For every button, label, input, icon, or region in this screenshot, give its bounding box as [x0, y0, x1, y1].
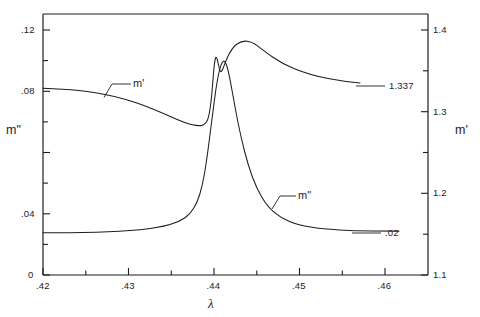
- curve-label-m-double-prime: m": [298, 190, 311, 201]
- x-axis-title: λ: [208, 297, 214, 310]
- plot-frame: [43, 14, 428, 275]
- left-axis-ticks: [43, 30, 50, 275]
- y2tick-label-14: 1.4: [433, 25, 447, 35]
- y2tick-label-12: 1.2: [433, 188, 447, 198]
- ytick-label-012: .12: [21, 25, 35, 35]
- xtick-label-042: .42: [36, 281, 50, 291]
- curve-label-m-prime: m': [133, 78, 145, 89]
- ytick-label-008: .08: [21, 86, 35, 96]
- y2tick-label-11: 1.1: [433, 270, 447, 280]
- y2tick-label-13: 1.3: [433, 107, 447, 117]
- value-label-m-prime-asymptote: 1.337: [389, 81, 414, 91]
- curve-m-prime: [43, 41, 360, 125]
- y2-axis-title: m': [455, 124, 468, 137]
- figure-root: 0 .04 .08 .12 1.1 1.2 1.3 1.4 .42 .43 .4…: [0, 0, 480, 317]
- chart-canvas: [0, 0, 480, 317]
- xtick-label-044: .44: [207, 281, 221, 291]
- x-axis-ticks: [43, 268, 385, 275]
- curve-m-double-prime: [43, 61, 399, 233]
- y-axis-title: m": [6, 124, 21, 137]
- xtick-label-045: .45: [292, 281, 306, 291]
- leader-line-m-double-prime: [272, 196, 296, 209]
- xtick-label-046: .46: [378, 281, 392, 291]
- right-axis-ticks: [421, 30, 428, 275]
- value-label-m-double-prime-asymptote: .02: [385, 228, 399, 238]
- xtick-label-043: .43: [121, 281, 135, 291]
- ytick-label-004: .04: [21, 209, 35, 219]
- ytick-label-0: 0: [28, 270, 33, 280]
